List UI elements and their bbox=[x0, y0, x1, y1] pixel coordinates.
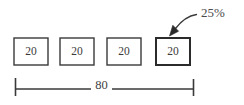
dimension-label: 80 bbox=[95, 78, 108, 92]
box-label-1: 20 bbox=[25, 45, 37, 57]
diagram-canvas: 20 20 20 20 25% 80 bbox=[0, 0, 244, 105]
box-item-2[interactable]: 20 bbox=[60, 38, 94, 65]
diagram-svg: 20 20 20 20 25% 80 bbox=[0, 0, 244, 105]
box-label-3: 20 bbox=[118, 45, 130, 57]
callout-group: 25% bbox=[170, 5, 226, 36]
box-label-2: 20 bbox=[71, 45, 83, 57]
box-item-4[interactable]: 20 bbox=[156, 38, 190, 65]
box-label-4: 20 bbox=[167, 45, 179, 57]
callout-label: 25% bbox=[201, 5, 225, 20]
box-group: 20 20 20 20 bbox=[14, 38, 190, 65]
box-item-1[interactable]: 20 bbox=[14, 38, 48, 65]
callout-arrow-icon bbox=[176, 15, 197, 29]
box-item-3[interactable]: 20 bbox=[107, 38, 141, 65]
dimension-group: 80 bbox=[15, 78, 194, 96]
